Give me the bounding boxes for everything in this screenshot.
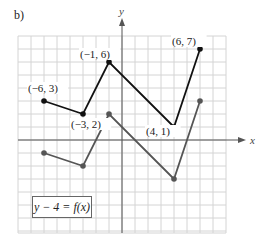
original-point xyxy=(197,46,203,52)
transformed-point xyxy=(80,163,86,169)
original-point xyxy=(106,59,112,65)
y-axis-label: y xyxy=(118,5,124,17)
point-label: (6, 7) xyxy=(172,35,196,48)
original-point xyxy=(41,98,47,104)
x-axis-label: x xyxy=(249,134,255,146)
transformed-point xyxy=(106,111,112,117)
x-axis-arrow-icon xyxy=(238,137,246,143)
equation-box: y − 4 = f(x) xyxy=(32,196,92,218)
transformed-point xyxy=(171,176,177,182)
original-point xyxy=(80,111,86,117)
y-axis-arrow-icon xyxy=(119,18,125,26)
transformed-point xyxy=(197,98,203,104)
point-label: (−3, 2) xyxy=(71,118,101,131)
point-label: (−1, 6) xyxy=(80,48,110,61)
point-label: (4, 1) xyxy=(146,125,170,138)
point-label: (−6, 3) xyxy=(28,82,58,95)
transformed-point xyxy=(41,150,47,156)
